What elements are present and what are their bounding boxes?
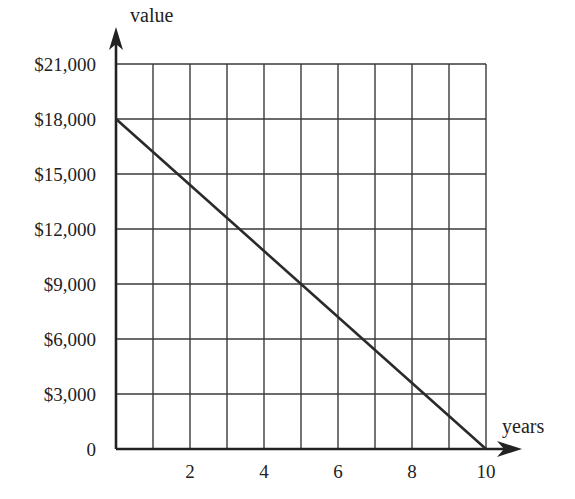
x-tick-label: 6 [333, 461, 343, 482]
y-tick-label: $3,000 [44, 384, 96, 405]
x-tick-label: 4 [259, 461, 269, 482]
x-tick-labels: 246810 [185, 461, 495, 482]
y-tick-label: $9,000 [44, 274, 96, 295]
y-tick-label: $6,000 [44, 329, 96, 350]
x-axis-label: years [502, 415, 544, 438]
depreciation-chart: 0$3,000$6,000$9,000$12,000$15,000$18,000… [0, 0, 575, 499]
y-axis-label: value [130, 4, 173, 26]
axes [109, 27, 522, 457]
y-tick-labels: 0$3,000$6,000$9,000$12,000$15,000$18,000… [34, 54, 96, 460]
grid-lines [116, 64, 486, 449]
y-tick-label: $18,000 [34, 109, 96, 130]
y-tick-label: $21,000 [34, 54, 96, 75]
x-tick-label: 8 [407, 461, 417, 482]
x-tick-label: 2 [185, 461, 195, 482]
x-tick-label: 10 [477, 461, 496, 482]
y-tick-label: $12,000 [34, 219, 96, 240]
y-tick-label: 0 [87, 439, 97, 460]
y-tick-label: $15,000 [34, 164, 96, 185]
